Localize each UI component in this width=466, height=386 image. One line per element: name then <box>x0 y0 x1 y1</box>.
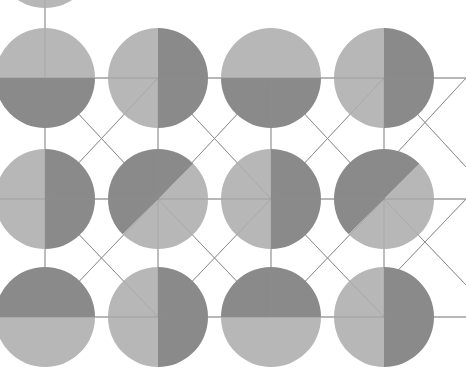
lattice-figure <box>0 0 466 386</box>
atoms-layer <box>0 0 466 367</box>
lattice-diagram-canvas <box>0 0 466 386</box>
